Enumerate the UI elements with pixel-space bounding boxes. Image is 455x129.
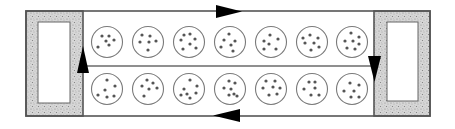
dish-dot	[267, 42, 270, 45]
dish-dot	[151, 81, 154, 84]
dish-dot	[227, 32, 230, 35]
dish-circle	[297, 27, 328, 58]
dish-dot	[188, 78, 191, 81]
dish-dot	[357, 95, 360, 98]
dish-dot	[96, 45, 99, 48]
dish-dot	[267, 93, 270, 96]
bottom-row	[92, 74, 368, 105]
dish-circle	[337, 74, 368, 105]
dish-dot	[357, 83, 360, 86]
dish-dot	[264, 79, 267, 82]
dish-dot	[194, 46, 197, 49]
dish-dot	[313, 86, 316, 89]
dish	[256, 74, 287, 105]
dish-dot	[271, 85, 274, 88]
dish	[297, 74, 328, 105]
dish-dot	[229, 43, 232, 46]
dish-dot	[351, 39, 354, 42]
dish-dot	[349, 31, 352, 34]
dish-dot	[105, 78, 108, 81]
dish	[215, 74, 246, 105]
dish-dot	[188, 96, 191, 99]
dish-dot	[185, 92, 188, 95]
dish-dot	[104, 39, 107, 42]
dish	[256, 27, 287, 58]
dish-dot	[343, 39, 346, 42]
dish-dot	[342, 89, 345, 92]
top-row	[92, 27, 368, 58]
dish-dot	[273, 79, 276, 82]
dish-circle	[256, 27, 287, 58]
dish-dot	[222, 38, 225, 41]
dish	[215, 27, 246, 58]
dish-circle	[92, 74, 123, 105]
dish-dot	[107, 34, 110, 37]
dish-dot	[113, 84, 116, 87]
dish-dot	[262, 47, 265, 50]
dish-dot	[313, 80, 316, 83]
dish-dot	[96, 93, 99, 96]
dish-dot	[268, 33, 271, 36]
dish-dot	[307, 80, 310, 83]
dish-dot	[182, 33, 185, 36]
dish-dot	[232, 92, 235, 95]
dish-dot	[353, 47, 356, 50]
dish-dot	[181, 47, 184, 50]
dish-dot	[188, 42, 191, 45]
dish-circle	[215, 27, 246, 58]
top-arrow-right-icon	[216, 5, 242, 18]
dish-dot	[142, 94, 145, 97]
dish	[337, 74, 368, 105]
dish-dot	[352, 89, 355, 92]
dish	[92, 74, 123, 105]
dish	[297, 27, 328, 58]
left-end-block-window	[38, 22, 70, 103]
dish	[133, 74, 164, 105]
dish-dot	[154, 39, 157, 42]
dish-dot	[105, 95, 108, 98]
dish-dot	[309, 93, 312, 96]
dish-dot	[312, 41, 315, 44]
dish-dot	[195, 84, 198, 87]
dish-dot	[140, 84, 143, 87]
right-end-block-window	[387, 22, 418, 101]
dish-circle	[174, 27, 205, 58]
dish-dot	[233, 39, 236, 42]
dish	[174, 27, 205, 58]
dish	[92, 27, 123, 58]
dish-dot	[357, 42, 360, 45]
bottom-arrow-left-icon	[213, 109, 240, 122]
dish-dot	[138, 40, 141, 43]
dish-dot	[275, 92, 278, 95]
dish-dot	[100, 34, 103, 37]
dish-circle	[174, 74, 205, 105]
dish-dot	[233, 81, 236, 84]
dish-dot	[147, 40, 150, 43]
dish-dot	[147, 87, 150, 90]
dish-dot	[308, 33, 311, 36]
dish-dot	[349, 95, 352, 98]
dish-dot	[345, 46, 348, 49]
dish-dot	[235, 94, 238, 97]
dish-dot	[148, 34, 151, 37]
dish-dot	[316, 36, 319, 39]
dish-dot	[107, 43, 110, 46]
dish-dot	[112, 94, 115, 97]
dish-dot	[112, 38, 115, 41]
dish-dot	[231, 49, 234, 52]
dish-dot	[357, 35, 360, 38]
dish-dot	[317, 93, 320, 96]
dish-dot	[219, 45, 222, 48]
dish-dot	[278, 86, 281, 89]
dish-dot	[309, 48, 312, 51]
dish-dot	[193, 37, 196, 40]
dish-dot	[317, 45, 320, 48]
dish-dot	[229, 87, 232, 90]
dish-dot	[145, 78, 148, 81]
dish-dot	[155, 86, 158, 89]
dish	[133, 27, 164, 58]
dish-circle	[256, 74, 287, 105]
dish-dot	[146, 48, 149, 51]
dish-dot	[303, 41, 306, 44]
dish-dot	[182, 87, 185, 90]
